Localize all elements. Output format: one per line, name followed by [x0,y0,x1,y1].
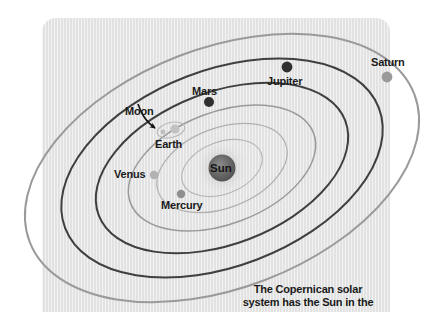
body-earth [170,124,179,133]
body-saturn [382,72,393,83]
caption-line-2: system has the Sun in the [228,296,388,309]
label-earth: Earth [155,139,182,150]
body-mercury [177,190,185,198]
label-jupiter: Jupiter [267,76,302,87]
label-mercury: Mercury [161,200,202,211]
figure-caption: The Copernican solar system has the Sun … [228,283,388,309]
caption-line-1: The Copernican solar [228,283,388,296]
label-sun: Sun [210,163,232,175]
label-mars: Mars [192,86,217,97]
label-saturn: Saturn [371,57,405,68]
label-venus: Venus [114,169,145,180]
body-mars [204,97,214,107]
figure-stage: Sun Mercury Venus Earth Moon Mars Jupite… [0,0,429,312]
label-moon: Moon [125,106,154,117]
body-venus [150,171,158,179]
solar-system-svg [0,0,429,312]
body-jupiter [282,62,293,73]
body-moon [161,130,166,135]
